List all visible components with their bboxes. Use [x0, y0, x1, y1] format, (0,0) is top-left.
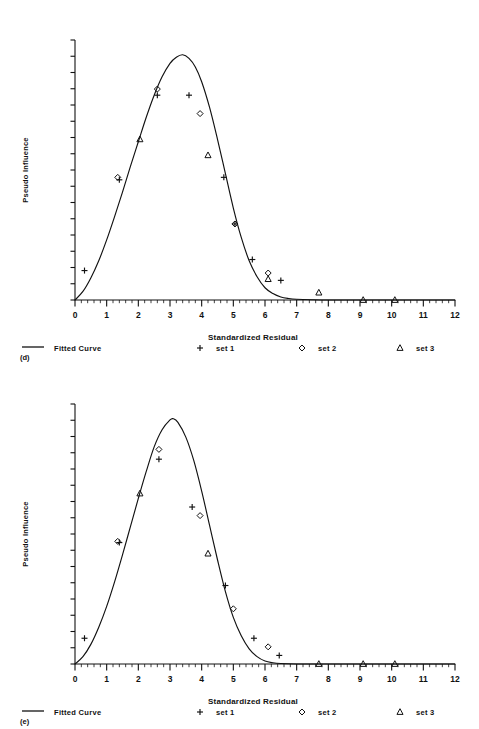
y-axis-title: Pseudo Influence: [21, 501, 30, 566]
series-set-3: [137, 490, 398, 666]
x-tick-label: 0: [73, 674, 78, 684]
diamond-marker: [265, 644, 271, 650]
chart-legend: Fitted Curveset 1set 2set 3: [22, 708, 435, 717]
triangle-marker: [205, 152, 211, 158]
x-tick-label: 4: [199, 674, 204, 684]
x-axis-ticks: [75, 300, 455, 307]
diamond-marker: [299, 345, 305, 351]
triangle-marker: [316, 289, 322, 295]
legend-label-fitted-curve: Fitted Curve: [54, 344, 101, 353]
x-tick-label: 3: [168, 310, 173, 320]
plus-marker: [197, 709, 203, 715]
series-set-3: [137, 136, 398, 302]
x-tick-label: 10: [387, 310, 397, 320]
fitted-curve-line: [75, 418, 455, 664]
x-tick-label: 7: [294, 674, 299, 684]
triangle-marker: [137, 136, 143, 142]
diamond-marker: [197, 513, 203, 519]
triangle-marker: [397, 345, 403, 351]
legend-label-set-3: set 3: [416, 708, 435, 717]
chart-canvas: 0123456789101112Pseudo InfluenceStandard…: [0, 0, 479, 365]
triangle-marker: [265, 276, 271, 282]
x-axis-ticks: [75, 664, 455, 671]
x-tick-label: 6: [263, 310, 268, 320]
x-tick-label: 3: [168, 674, 173, 684]
x-tick-label: 1: [104, 674, 109, 684]
figure-panel-d: 0123456789101112Pseudo InfluenceStandard…: [0, 0, 479, 365]
series-set-2: [115, 86, 271, 276]
triangle-marker: [397, 709, 403, 715]
chart-canvas: 0123456789101112Pseudo InfluenceStandard…: [0, 364, 479, 729]
panel-label: (e): [20, 717, 30, 726]
x-axis-title: Standardized Residual: [208, 333, 298, 342]
x-tick-label: 12: [450, 674, 460, 684]
x-tick-label: 11: [419, 310, 428, 320]
legend-label-fitted-curve: Fitted Curve: [54, 708, 101, 717]
figure-page: 0123456789101112Pseudo InfluenceStandard…: [0, 0, 479, 729]
series-set-1: [82, 92, 284, 283]
x-tick-label: 2: [136, 310, 141, 320]
diamond-marker: [197, 111, 203, 117]
x-tick-label: 11: [419, 674, 428, 684]
legend-label-set-3: set 3: [416, 344, 435, 353]
x-tick-label: 6: [263, 674, 268, 684]
triangle-marker: [205, 550, 211, 556]
legend-label-set-2: set 2: [318, 708, 337, 717]
plus-marker: [186, 92, 192, 98]
panel-label: (d): [20, 353, 30, 362]
x-axis-tick-labels: 0123456789101112: [73, 674, 460, 684]
x-tick-label: 2: [136, 674, 141, 684]
plus-marker: [82, 635, 88, 641]
legend-label-set-1: set 1: [216, 344, 235, 353]
legend-label-set-2: set 2: [318, 344, 337, 353]
y-axis-ticks: [71, 404, 76, 664]
plus-marker: [249, 257, 255, 263]
x-axis-tick-labels: 0123456789101112: [73, 310, 460, 320]
plus-marker: [156, 456, 162, 462]
diamond-marker: [299, 709, 305, 715]
x-tick-label: 8: [326, 674, 331, 684]
x-tick-label: 12: [450, 310, 460, 320]
x-tick-label: 9: [358, 674, 363, 684]
x-tick-label: 7: [294, 310, 299, 320]
y-axis-ticks: [71, 40, 76, 300]
diamond-marker: [156, 446, 162, 452]
plus-marker: [197, 345, 203, 351]
plus-marker: [189, 504, 195, 510]
x-tick-label: 8: [326, 310, 331, 320]
series-set-1: [82, 456, 283, 658]
x-axis-title: Standardized Residual: [208, 697, 298, 706]
x-tick-label: 10: [387, 674, 397, 684]
x-tick-label: 0: [73, 310, 78, 320]
plus-marker: [278, 277, 284, 283]
chart-legend: Fitted Curveset 1set 2set 3: [22, 344, 435, 353]
plus-marker: [251, 635, 257, 641]
figure-panel-e: 0123456789101112Pseudo InfluenceStandard…: [0, 364, 479, 729]
x-tick-label: 9: [358, 310, 363, 320]
fitted-curve-line: [75, 55, 455, 300]
series-set-2: [115, 446, 271, 649]
y-axis-title: Pseudo Influence: [21, 137, 30, 202]
x-tick-label: 5: [231, 310, 236, 320]
x-tick-label: 4: [199, 310, 204, 320]
plus-marker: [276, 652, 282, 658]
x-tick-label: 5: [231, 674, 236, 684]
x-tick-label: 1: [104, 310, 109, 320]
legend-label-set-1: set 1: [216, 708, 235, 717]
plus-marker: [82, 268, 88, 274]
